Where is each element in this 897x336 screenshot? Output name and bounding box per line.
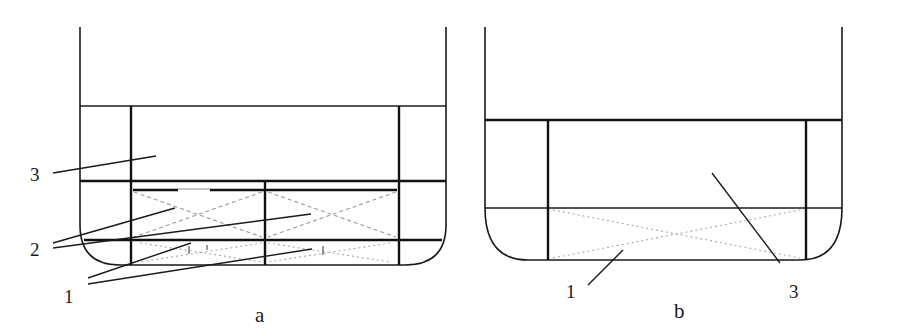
panel-b-bracing xyxy=(553,210,800,258)
panel-b-leader-3 xyxy=(712,173,780,263)
panel-a-leader-2 xyxy=(53,208,175,243)
panel-b-label-1: 1 xyxy=(566,281,576,302)
panel-b-label-3: 3 xyxy=(789,281,799,302)
panel-b-caption: b xyxy=(674,299,685,323)
panel-a-leader-3 xyxy=(53,156,156,173)
panel-a-hull-outline xyxy=(80,27,446,265)
panel-b-leader-1 xyxy=(588,250,623,285)
panel-a-caption: a xyxy=(255,303,265,327)
diagram-canvas: 3 2 1 a 1 3 b xyxy=(0,0,897,336)
panel-a-label-3: 3 xyxy=(30,164,40,185)
panel-a-label-2: 2 xyxy=(30,239,40,260)
panel-a-leader-1 xyxy=(88,243,191,278)
panel-a-leader-2 xyxy=(53,214,311,248)
panel-b-hull-outline xyxy=(485,27,842,260)
panel-a: 3 2 1 a xyxy=(30,27,446,327)
panel-a-label-1: 1 xyxy=(64,286,74,307)
panel-b: 1 3 b xyxy=(485,27,842,323)
